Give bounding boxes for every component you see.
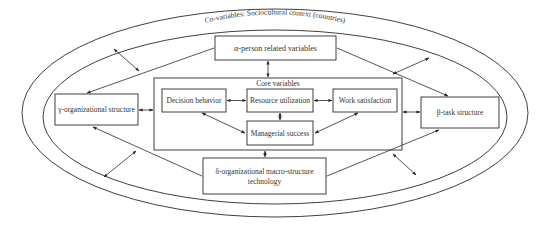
core-variables-title: Core variables bbox=[256, 79, 300, 88]
managerial-success-label: Managerial success bbox=[251, 129, 310, 138]
ring-arrow-top-left bbox=[114, 49, 139, 71]
decision-behavior-label: Decision behavior bbox=[167, 96, 222, 105]
research-model-diagram: Co-variables: Sociocultural context (cou… bbox=[0, 0, 551, 226]
ring-arrow-bottom-right bbox=[393, 154, 416, 175]
resource-utilization-label: Resource utilization bbox=[250, 96, 310, 105]
beta-label: β-task structure bbox=[437, 108, 484, 117]
ring-arrow-top-right bbox=[393, 58, 429, 74]
context-label: Co-variables: Sociocultural context (cou… bbox=[204, 7, 347, 24]
alpha-label: α-person related variables bbox=[234, 44, 317, 53]
gamma-label: γ-organizational structure bbox=[57, 105, 135, 114]
ring-arrow-bottom-left bbox=[104, 151, 136, 177]
delta-label-line2: technology bbox=[248, 177, 282, 186]
work-satisfaction-label: Work satisfaction bbox=[339, 96, 392, 105]
delta-label-line1: δ-organizational macro-structure bbox=[215, 167, 314, 176]
delta-macro-structure-box bbox=[203, 158, 326, 194]
